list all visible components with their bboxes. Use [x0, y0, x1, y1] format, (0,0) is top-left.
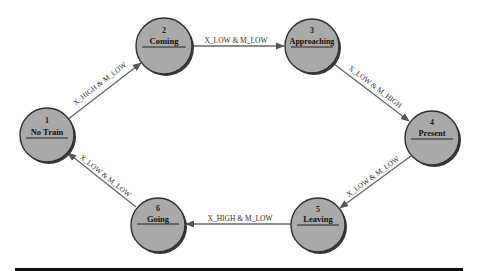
edge-label: X_LOW & M_LOW: [345, 154, 402, 199]
node-going: 6 Going: [131, 198, 187, 254]
edge-5-to-6: X_HIGH & M_LOW: [186, 214, 291, 224]
node-name: Leaving: [303, 214, 333, 224]
node-approaching: 3 Approaching: [285, 19, 341, 75]
node-present: 4 Present: [405, 111, 461, 167]
edge-label: X_HIGH & M_LOW: [71, 60, 129, 107]
node-number: 5: [316, 205, 320, 214]
node-number: 2: [162, 26, 166, 35]
node-name: Going: [147, 214, 170, 224]
node-leaving: 5 Leaving: [291, 198, 347, 254]
state-diagram: X_HIGH & M_LOW X_LOW & M_LOW X_LOW & M_H…: [0, 0, 479, 271]
node-name: Approaching: [290, 37, 335, 46]
edge-label: X_LOW & M_HIGH: [347, 63, 405, 110]
edge-2-to-3: X_LOW & M_LOW: [192, 36, 284, 46]
edge-label: X_LOW & M_LOW: [78, 153, 134, 200]
edge-1-to-2: X_HIGH & M_LOW: [67, 60, 141, 120]
edge-4-to-5: X_LOW & M_LOW: [340, 154, 411, 208]
edge-label: X_LOW & M_LOW: [204, 36, 268, 45]
node-number: 6: [156, 204, 160, 213]
node-number: 3: [310, 26, 314, 35]
edges: X_HIGH & M_LOW X_LOW & M_LOW X_LOW & M_H…: [67, 36, 411, 224]
edge-3-to-4: X_LOW & M_HIGH: [334, 63, 409, 121]
node-no-train: 1 No Train: [20, 108, 76, 164]
node-number: 4: [430, 118, 434, 127]
node-number: 1: [45, 116, 49, 125]
node-name: No Train: [31, 127, 64, 137]
node-name: Coming: [150, 36, 180, 46]
node-coming: 2 Coming: [136, 18, 194, 76]
edge-label: X_HIGH & M_LOW: [208, 214, 274, 223]
edge-6-to-1: X_LOW & M_LOW: [68, 153, 136, 207]
node-name: Present: [418, 128, 445, 138]
